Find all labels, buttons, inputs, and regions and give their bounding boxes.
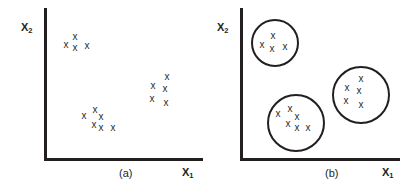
- data-point-mark: x: [260, 40, 265, 50]
- data-point-mark: x: [286, 119, 291, 129]
- x-axis-label: X1: [382, 167, 394, 178]
- ring-top-left: [251, 19, 299, 67]
- data-point-mark: x: [288, 104, 293, 114]
- data-point-mark: x: [357, 86, 362, 96]
- data-point-mark: x: [295, 123, 300, 133]
- data-point-mark: x: [295, 112, 300, 122]
- data-point-mark: x: [359, 100, 364, 110]
- x-axis-label-subscript: 1: [389, 171, 393, 180]
- panel-caption-b: (b): [325, 168, 338, 179]
- y-axis-label: X2: [217, 22, 229, 33]
- clustering-figure: X2X1(a)xxxxxxxxxxxxxxxX2X1(b)xxxxxxxxxxx…: [0, 0, 412, 194]
- data-point-mark: x: [271, 31, 276, 41]
- data-point-mark: x: [359, 74, 364, 84]
- data-point-mark: x: [345, 83, 350, 93]
- y-axis-line: [240, 8, 243, 161]
- panel-b: X2X1(b)xxxxxxxxxxxxxxx: [0, 0, 412, 194]
- data-point-mark: x: [344, 96, 349, 106]
- data-point-mark: x: [283, 42, 288, 52]
- data-point-mark: x: [270, 44, 275, 54]
- data-point-mark: x: [306, 123, 311, 133]
- x-axis-line: [240, 158, 400, 161]
- y-axis-label-subscript: 2: [224, 26, 228, 35]
- data-point-mark: x: [276, 109, 281, 119]
